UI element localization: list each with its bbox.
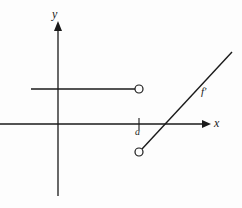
curve-label-fprime: f' [201, 86, 206, 97]
graph-figure: y x a f' [0, 0, 242, 208]
fprime-right-branch [142, 52, 232, 149]
open-circle-upper [135, 85, 143, 93]
open-circle-lower [135, 148, 143, 156]
y-axis-arrowhead [54, 21, 62, 31]
x-axis [0, 120, 211, 128]
y-axis [54, 21, 62, 196]
x-axis-label: x [214, 117, 219, 129]
y-axis-label: y [52, 8, 57, 20]
tick-label-a: a [135, 127, 140, 137]
graph-canvas [0, 0, 242, 208]
x-axis-arrowhead [202, 120, 211, 128]
